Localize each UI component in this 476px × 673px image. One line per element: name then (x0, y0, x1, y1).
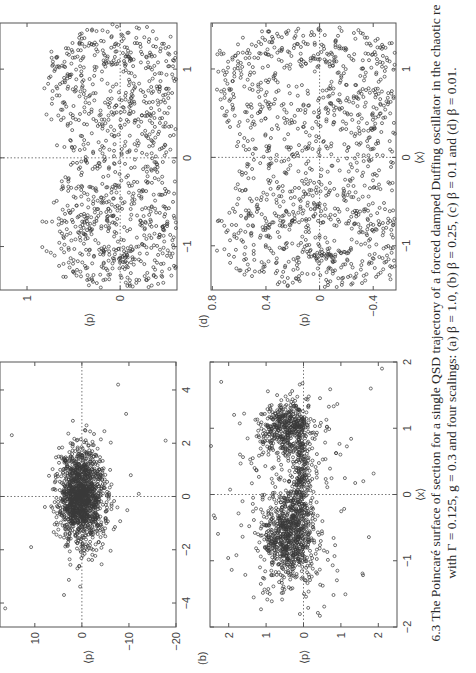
y-axis-label: ⟨p⟩ (83, 313, 95, 327)
y-tick-label: 2 (223, 632, 235, 638)
y-tick-label: 0 (114, 295, 126, 301)
y-tick-label: 1 (260, 632, 272, 638)
panel-c-plot: −10101⟨p⟩(c) (0, 23, 177, 290)
panel-b-plot: −2−101221012⟨p⟩⟨x⟩(b) (210, 362, 397, 627)
y-axis-label: ⟨p⟩ (82, 650, 94, 664)
panel-label: (b) (196, 652, 208, 665)
x-axis-label: ⟨x⟩ (414, 488, 426, 502)
x-tick-label: 1 (401, 425, 413, 431)
y-tick-label: 0 (314, 295, 326, 301)
x-axis-label: ⟨x⟩ (413, 151, 425, 165)
x-tick-label: 1 (400, 66, 412, 72)
x-tick-label: 0 (400, 154, 412, 160)
x-tick-label: 0 (180, 493, 192, 499)
x-tick-label: −4 (180, 597, 192, 610)
x-tick-label: −1 (181, 240, 193, 253)
caption-line-1: 6.3 The Poincaré surface of section for … (428, 0, 444, 673)
x-tick-label: −2 (180, 543, 192, 556)
caption-line-2: with Γ = 0.125, g = 0.3 and four scaling… (444, 0, 460, 673)
figure-caption: 6.3 The Poincaré surface of section for … (428, 0, 460, 673)
y-tick-label: −0.4 (367, 295, 379, 317)
y-axis-label: ⟨p⟩ (298, 650, 310, 664)
x-tick-label: 1 (181, 66, 193, 72)
y-tick-label: −10 (123, 632, 135, 651)
data-points (210, 367, 384, 617)
y-tick-label: 1 (21, 295, 33, 301)
panel-b-scatter: −2−101221012⟨p⟩⟨x⟩(b) (210, 362, 397, 627)
panel-c-scatter: −10101⟨p⟩(c) (0, 23, 177, 290)
y-tick-label: 0 (298, 632, 310, 638)
x-tick-label: 2 (401, 359, 413, 365)
data-points (41, 23, 178, 289)
x-tick-label: −1 (400, 240, 412, 253)
x-tick-label: 4 (180, 387, 192, 393)
x-tick-label: 0 (401, 491, 413, 497)
x-tick-label: −1 (401, 554, 413, 567)
x-tick-label: −2 (401, 621, 413, 634)
y-tick-label: 0.4 (260, 295, 272, 310)
x-tick-label: 2 (180, 440, 192, 446)
y-tick-label: 10 (29, 632, 41, 644)
y-tick-label: 2 (372, 632, 384, 638)
y-axis-label: ⟨p⟩ (298, 313, 310, 327)
panel-a-scatter: −4−2024−20−10010⟨p⟩(a) (0, 362, 176, 627)
x-tick-label: 0 (181, 155, 193, 161)
panel-a-plot: −4−2024−20−10010⟨p⟩(a) (0, 362, 176, 627)
y-tick-label: 1 (335, 632, 347, 638)
y-tick-label: −20 (170, 632, 182, 651)
y-tick-label: 0.8 (206, 295, 218, 310)
panel-d-scatter: −101−0.400.40.8⟨p⟩⟨x⟩(d) (211, 23, 396, 290)
y-tick-label: 0 (76, 632, 88, 638)
panel-label: (d) (197, 315, 209, 328)
figure: −4−2024−20−10010⟨p⟩(a) −10101⟨p⟩(c) −2−1… (0, 0, 476, 673)
panel-d-plot: −101−0.400.40.8⟨p⟩⟨x⟩(d) (211, 23, 396, 290)
